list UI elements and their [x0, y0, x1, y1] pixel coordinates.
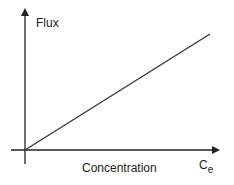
x-symbol-main: C — [199, 158, 208, 172]
x-axis-label: Concentration — [82, 161, 157, 175]
y-axis-label: Flux — [36, 16, 59, 30]
x-symbol-subscript: e — [208, 164, 214, 175]
x-axis-symbol: Ce — [199, 158, 214, 175]
flux-line — [25, 34, 210, 150]
flux-concentration-chart: Flux Concentration Ce — [0, 0, 234, 185]
